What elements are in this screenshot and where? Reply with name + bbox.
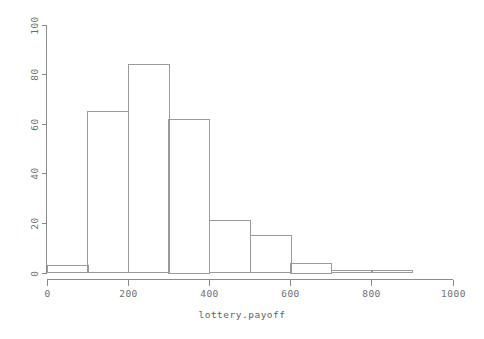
y-axis-tick-label: 80 (29, 68, 40, 80)
histogram-plot: 020406080100 02004006008001000 lottery.p… (0, 0, 484, 339)
y-axis-tick-label: 0 (29, 270, 40, 276)
y-axis-tick-label: 100 (29, 16, 40, 35)
x-axis-title: lottery.payoff (198, 309, 285, 320)
histogram-bar (210, 221, 251, 273)
histogram-bar (48, 266, 89, 273)
histogram-bars (48, 65, 413, 274)
y-axis-tick-label: 60 (29, 118, 40, 130)
histogram-bar (291, 264, 332, 274)
x-axis-tick-label: 0 (44, 288, 50, 299)
chart-canvas: 020406080100 02004006008001000 lottery.p… (0, 0, 484, 339)
histogram-bar (88, 112, 129, 273)
y-axis: 020406080100 (29, 16, 47, 276)
x-axis-tick-label: 1000 (441, 288, 466, 299)
histogram-bar (332, 271, 373, 273)
x-axis-tick-label: 600 (281, 288, 300, 299)
y-axis-ticks: 020406080100 (29, 16, 47, 276)
histogram-bar (372, 271, 413, 273)
y-axis-tick-label: 40 (29, 167, 40, 179)
histogram-bar (251, 236, 292, 273)
histogram-bar (169, 120, 210, 274)
x-axis-tick-label: 400 (200, 288, 219, 299)
x-axis-tick-label: 800 (362, 288, 381, 299)
x-axis-tick-label: 200 (119, 288, 138, 299)
histogram-bar (129, 65, 170, 273)
y-axis-tick-label: 20 (29, 217, 40, 229)
x-axis-ticks: 02004006008001000 (44, 280, 466, 300)
x-axis: 02004006008001000 (44, 280, 466, 300)
